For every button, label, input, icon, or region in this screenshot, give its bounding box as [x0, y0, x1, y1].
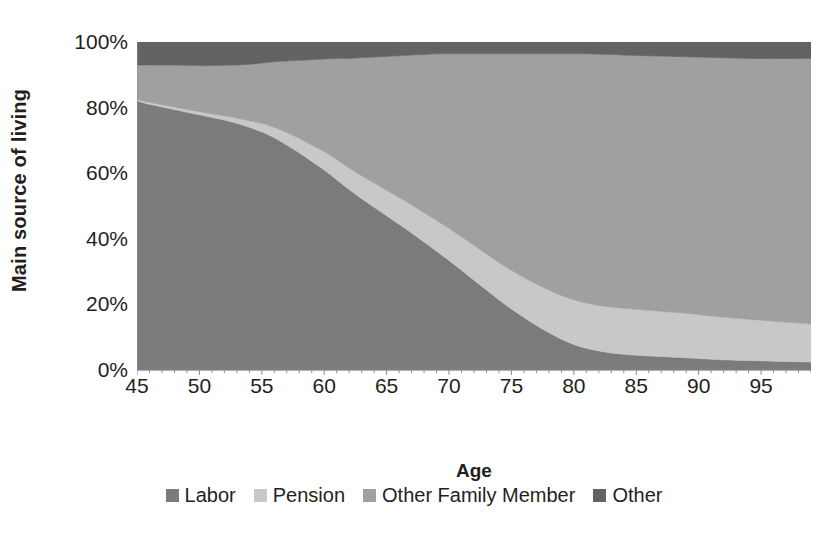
y-axis-tick-label: 100% — [48, 30, 128, 54]
x-axis-tick-label: 65 — [375, 374, 398, 398]
x-axis-tick-labels: 4550556065707580859095 — [137, 374, 811, 408]
y-axis-tick-label: 0% — [48, 358, 128, 382]
legend-swatch-icon — [593, 489, 606, 502]
chart-legend: LaborPensionOther Family MemberOther — [0, 484, 828, 507]
legend-swatch-icon — [166, 489, 179, 502]
x-axis-tick-label: 95 — [749, 374, 772, 398]
x-axis-tick-label: 45 — [125, 374, 148, 398]
y-axis-tick-label: 40% — [48, 227, 128, 251]
y-axis-tick-label: 60% — [48, 161, 128, 185]
legend-label: Other — [612, 484, 662, 507]
x-axis-tick-label: 85 — [625, 374, 648, 398]
legend-label: Other Family Member — [382, 484, 575, 507]
x-axis-tick-label: 80 — [562, 374, 585, 398]
x-axis-tick-label: 60 — [313, 374, 336, 398]
x-axis-tick-label: 70 — [437, 374, 460, 398]
x-axis-title: Age — [137, 460, 811, 482]
legend-swatch-icon — [363, 489, 376, 502]
legend-label: Labor — [185, 484, 236, 507]
x-axis-tick-label: 75 — [500, 374, 523, 398]
stacked-area-svg — [137, 42, 811, 376]
legend-item[interactable]: Labor — [166, 484, 236, 507]
legend-item[interactable]: Other — [593, 484, 662, 507]
y-axis-tick-label: 80% — [48, 96, 128, 120]
legend-label: Pension — [273, 484, 345, 507]
y-axis-title-text: Main source of living — [9, 88, 32, 291]
y-axis-title: Main source of living — [0, 0, 40, 380]
chart-figure: Main source of living 0%20%40%60%80%100%… — [0, 0, 828, 545]
x-axis-tick-label: 55 — [250, 374, 273, 398]
legend-item[interactable]: Other Family Member — [363, 484, 575, 507]
x-axis-tick-label: 90 — [687, 374, 710, 398]
y-axis-tick-label: 20% — [48, 292, 128, 316]
legend-item[interactable]: Pension — [254, 484, 345, 507]
x-axis-tick-label: 50 — [188, 374, 211, 398]
y-axis-tick-labels: 0%20%40%60%80%100% — [38, 0, 128, 545]
plot-area — [137, 42, 811, 370]
legend-swatch-icon — [254, 489, 267, 502]
